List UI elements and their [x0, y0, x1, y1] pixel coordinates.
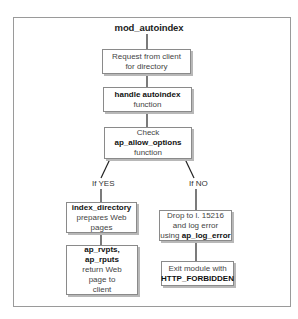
node-drop-line1: Drop to l. 15216 — [167, 211, 224, 221]
node-rputs-bold2: ap_rputs — [85, 255, 119, 265]
branch-no-label: If NO — [189, 179, 208, 188]
node-exit-forbidden: Exit module with HTTP_FORBIDDEN — [161, 261, 234, 286]
node-drop-line2: and log error — [173, 221, 218, 231]
node-index-bold: index_directory — [72, 203, 132, 213]
node-index-line2: prepares Web pages — [67, 213, 136, 233]
node-handle-bold: handle autoindex — [115, 90, 181, 100]
node-check-allow-options: Check ap_allow_options function — [104, 127, 192, 159]
node-ap-rputs: ap_rvpts, ap_rputs return Web page to cl… — [66, 245, 138, 295]
branch-yes-label: If YES — [92, 179, 115, 188]
node-rputs-bold1: ap_rvpts, — [84, 245, 120, 255]
node-drop-log-error: Drop to l. 15216 and log error using ap_… — [159, 210, 232, 241]
node-rputs-line5: client — [93, 285, 112, 295]
node-check-line3: function — [134, 148, 162, 158]
node-drop-line3: using ap_log_error — [160, 231, 230, 241]
node-handle-line2: function — [133, 100, 161, 110]
node-request-line1: Request from client — [112, 52, 181, 62]
node-exit-bold: HTTP_FORBIDDEN — [161, 274, 234, 284]
node-index-directory: index_directory prepares Web pages — [66, 202, 137, 233]
node-handle-autoindex: handle autoindex function — [103, 87, 192, 112]
node-check-line1: Check — [137, 128, 160, 138]
node-request-line2: for directory — [125, 62, 167, 72]
node-exit-line1: Exit module with — [168, 264, 226, 274]
connector-lines — [0, 0, 298, 319]
diagram-title: mod_autoindex — [0, 22, 298, 33]
node-request: Request from client for directory — [102, 49, 191, 74]
node-check-bold: ap_allow_options — [114, 138, 181, 148]
node-rputs-line4: page to — [89, 275, 116, 285]
flowchart: mod_autoindex Request from client for di… — [0, 0, 298, 319]
node-rputs-line3: return Web — [82, 265, 121, 275]
node-drop-line3-bold: ap_log_error — [182, 231, 231, 240]
node-drop-line3-prefix: using — [160, 231, 181, 240]
